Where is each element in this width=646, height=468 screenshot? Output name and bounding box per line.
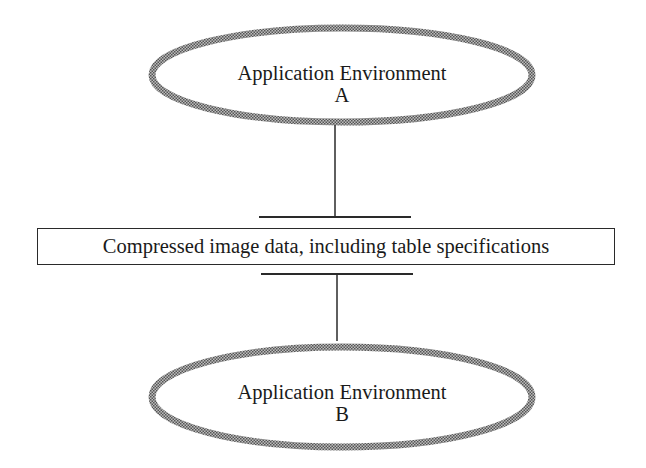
compressed-data-box: Compressed image data, including table s… (37, 228, 615, 265)
environment-a-letter: A (192, 84, 492, 106)
environment-b-letter: B (192, 403, 492, 425)
label-environment-b: Application Environment B (192, 381, 492, 425)
interchange-diagram: Application Environment A Compressed ima… (0, 0, 646, 468)
label-environment-a: Application Environment A (192, 62, 492, 106)
environment-b-title: Application Environment (192, 381, 492, 403)
compressed-data-label: Compressed image data, including table s… (103, 235, 549, 258)
environment-a-title: Application Environment (192, 62, 492, 84)
